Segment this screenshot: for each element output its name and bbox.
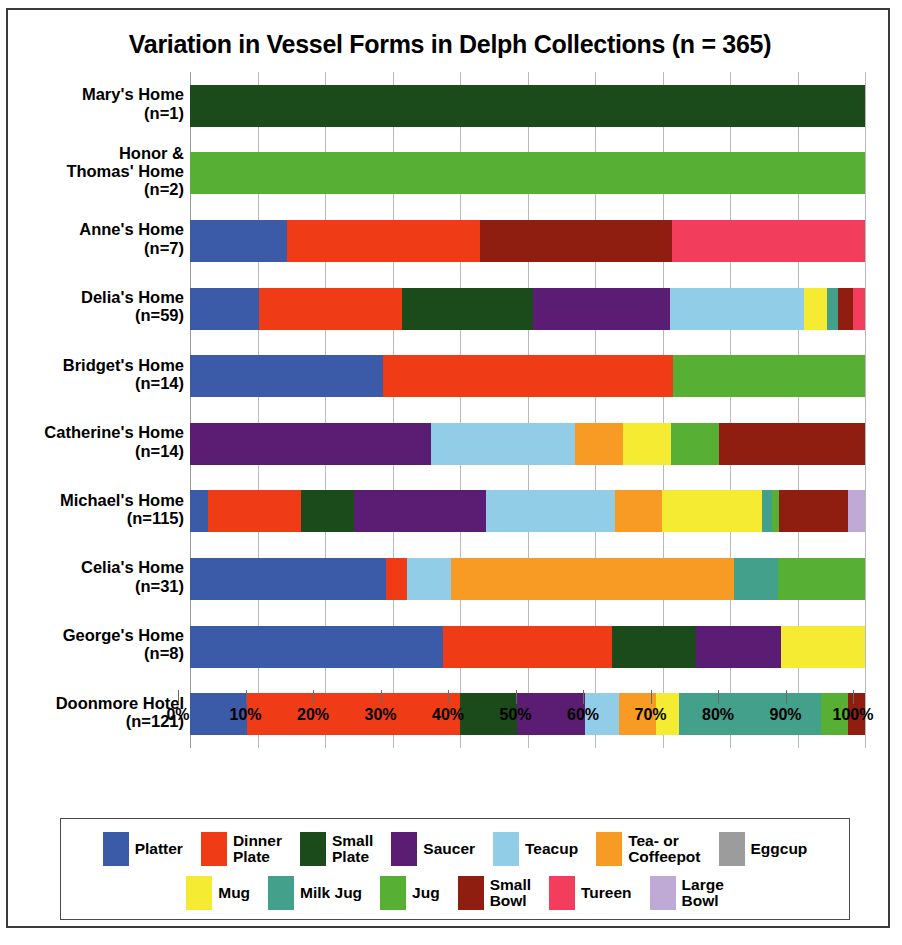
legend-swatch-icon: [391, 832, 417, 866]
bar-segment: [575, 423, 623, 465]
bar-segment: [612, 626, 696, 668]
bar-row: [190, 626, 865, 668]
legend-label: Small Plate: [332, 833, 373, 865]
legend-item[interactable]: Milk Jug: [268, 876, 362, 910]
y-axis-label-count: (n=31): [20, 577, 184, 595]
y-axis-label: Catherine's Home(n=14): [20, 423, 184, 460]
x-axis-tick: [718, 690, 719, 704]
bar-segment: [301, 490, 354, 532]
legend-row-2: MugMilk JugJugSmall BowlTureenLarge Bowl: [65, 871, 845, 915]
x-axis-tick-label: 80%: [683, 706, 753, 724]
x-axis-tick: [381, 690, 382, 704]
legend-item[interactable]: Mug: [186, 876, 250, 910]
legend-label: Teacup: [525, 841, 578, 857]
legend-item[interactable]: Eggcup: [719, 832, 808, 866]
y-axis-label: Anne's Home(n=7): [20, 220, 184, 257]
legend-label: Milk Jug: [300, 885, 362, 901]
bar-segment: [190, 152, 865, 194]
bar-segment: [480, 220, 672, 262]
bar-row: [190, 288, 865, 330]
bar-row: [190, 85, 865, 127]
legend-label: Mug: [218, 885, 250, 901]
bar-segment: [190, 423, 431, 465]
y-axis-label: Honor &Thomas' Home(n=2): [20, 144, 184, 199]
bar-segment: [190, 288, 259, 330]
legend-swatch-icon: [650, 876, 676, 910]
legend-label: Small Bowl: [490, 877, 531, 909]
legend-item[interactable]: Tea- or Coffeepot: [596, 832, 700, 866]
legend-item[interactable]: Small Bowl: [458, 876, 531, 910]
legend-item[interactable]: Saucer: [391, 832, 475, 866]
bar-row: [190, 423, 865, 465]
legend-swatch-icon: [268, 876, 294, 910]
legend-item[interactable]: Small Plate: [300, 832, 373, 866]
page-title: Variation in Vessel Forms in Delph Colle…: [8, 30, 892, 59]
bar-segment: [287, 220, 480, 262]
bar-segment: [190, 558, 386, 600]
legend-label: Large Bowl: [682, 877, 724, 909]
y-axis-label-name: Thomas' Home: [20, 162, 184, 180]
bar-segment: [386, 558, 408, 600]
y-axis-label: Bridget's Home(n=14): [20, 356, 184, 393]
bar-row: [190, 490, 865, 532]
bar-segment: [662, 490, 762, 532]
y-axis-label-name: Mary's Home: [20, 85, 184, 103]
y-axis-labels: Mary's Home(n=1)Honor &Thomas' Home(n=2)…: [20, 68, 184, 748]
legend-label: Tureen: [581, 885, 632, 901]
legend-swatch-icon: [186, 876, 212, 910]
legend-item[interactable]: Dinner Plate: [201, 832, 282, 866]
bar-segment: [672, 220, 865, 262]
bar-segment: [781, 626, 865, 668]
y-axis-label-name: Anne's Home: [20, 220, 184, 238]
x-axis-tick: [651, 690, 652, 704]
x-axis-tick-label: 30%: [346, 706, 416, 724]
gridline: [865, 72, 866, 748]
bar-segment: [190, 626, 443, 668]
y-axis-label-name: Michael's Home: [20, 491, 184, 509]
legend-label: Dinner Plate: [233, 833, 282, 865]
bar-segment: [486, 490, 615, 532]
legend-item[interactable]: Platter: [103, 832, 183, 866]
plot-wrapper: Mary's Home(n=1)Honor &Thomas' Home(n=2)…: [20, 68, 878, 768]
x-axis: 0%10%20%30%40%50%60%70%80%90%100%: [178, 690, 853, 740]
x-axis-tick: [448, 690, 449, 704]
legend-item[interactable]: Large Bowl: [650, 876, 724, 910]
x-axis-tick: [246, 690, 247, 704]
x-axis-tick-label: 40%: [413, 706, 483, 724]
bar-segment: [673, 355, 865, 397]
bar-segment: [402, 288, 534, 330]
y-axis-label-name: Bridget's Home: [20, 356, 184, 374]
legend-swatch-icon: [549, 876, 575, 910]
bar-segment: [443, 626, 612, 668]
bar-segment: [259, 288, 402, 330]
y-axis-label-name: Honor &: [20, 144, 184, 162]
legend-item[interactable]: Jug: [380, 876, 440, 910]
legend-label: Eggcup: [751, 841, 808, 857]
y-axis-label-name: Delia's Home: [20, 288, 184, 306]
legend-swatch-icon: [380, 876, 406, 910]
bar-segment: [696, 626, 780, 668]
y-axis-label-count: (n=59): [20, 306, 184, 324]
y-axis-label: Celia's Home(n=31): [20, 558, 184, 595]
y-axis-label: George's Home(n=8): [20, 626, 184, 663]
bar-row: [190, 558, 865, 600]
bar-segment: [804, 288, 827, 330]
bar-segment: [190, 220, 287, 262]
x-axis-tick-label: 70%: [616, 706, 686, 724]
legend-item[interactable]: Teacup: [493, 832, 578, 866]
legend-item[interactable]: Tureen: [549, 876, 632, 910]
x-axis-tick-label: 10%: [211, 706, 281, 724]
y-axis-label-count: (n=7): [20, 239, 184, 257]
x-axis-tick-label: 100%: [818, 706, 888, 724]
bar-segment: [827, 288, 838, 330]
bar-segment: [762, 490, 771, 532]
y-axis-label-name: Catherine's Home: [20, 423, 184, 441]
legend-swatch-icon: [201, 832, 227, 866]
legend-label: Saucer: [423, 841, 475, 857]
x-axis-tick: [313, 690, 314, 704]
bar-segment: [615, 490, 662, 532]
bar-segment: [354, 490, 486, 532]
legend-swatch-icon: [596, 832, 622, 866]
legend-label: Tea- or Coffeepot: [628, 833, 700, 865]
bar-segment: [190, 85, 865, 127]
